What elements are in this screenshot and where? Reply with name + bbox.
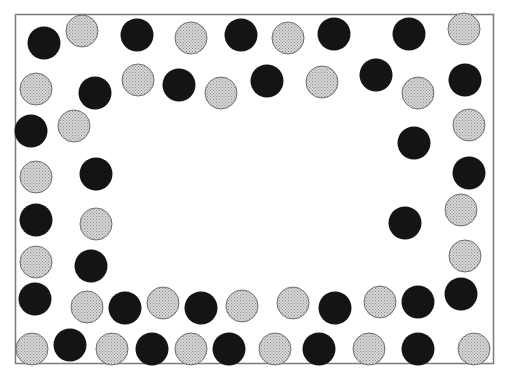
gray-circle	[449, 240, 481, 272]
black-circle	[20, 204, 53, 237]
gray-circle	[277, 287, 309, 319]
black-circle	[15, 115, 48, 148]
black-circle	[393, 18, 426, 51]
gray-circle	[259, 333, 291, 365]
black-circle	[303, 333, 336, 366]
gray-circle	[147, 287, 179, 319]
gray-circle	[71, 291, 103, 323]
gray-circle	[58, 110, 90, 142]
black-circle	[445, 278, 478, 311]
gray-circle	[453, 109, 485, 141]
black-circle	[251, 65, 284, 98]
gray-circle	[402, 77, 434, 109]
black-circle	[360, 59, 393, 92]
gray-circle	[20, 73, 52, 105]
black-circle	[109, 292, 142, 325]
black-circle	[398, 127, 431, 160]
gray-circle	[16, 333, 48, 365]
black-circle	[389, 207, 422, 240]
gray-circle	[20, 161, 52, 193]
black-circle	[163, 69, 196, 102]
black-circle	[28, 27, 61, 60]
gray-circle	[353, 333, 385, 365]
gray-circle	[226, 290, 258, 322]
gray-circle	[20, 246, 52, 278]
gray-circle	[272, 22, 304, 54]
gray-circle	[96, 333, 128, 365]
black-circle	[75, 250, 108, 283]
circle-group	[15, 13, 491, 366]
gray-circle	[66, 15, 98, 47]
black-circle	[54, 329, 87, 362]
black-circle	[213, 333, 246, 366]
black-circle	[121, 19, 154, 52]
gray-circle	[364, 286, 396, 318]
black-circle	[80, 158, 113, 191]
gray-circle	[306, 66, 338, 98]
black-circle	[402, 333, 435, 366]
gray-circle	[175, 333, 207, 365]
gray-circle	[205, 77, 237, 109]
black-circle	[449, 64, 482, 97]
black-circle	[318, 18, 351, 51]
black-circle	[225, 19, 258, 52]
gray-circle	[458, 333, 490, 365]
black-circle	[79, 77, 112, 110]
black-circle	[136, 333, 169, 366]
gray-circle	[445, 194, 477, 226]
black-circle	[185, 292, 218, 325]
black-circle	[319, 292, 352, 325]
gray-circle	[175, 22, 207, 54]
black-circle	[402, 286, 435, 319]
gray-circle	[448, 13, 480, 45]
black-circle	[453, 157, 486, 190]
gray-circle	[80, 208, 112, 240]
circle-diagram	[0, 0, 510, 377]
gray-circle	[122, 64, 154, 96]
black-circle	[19, 283, 52, 316]
